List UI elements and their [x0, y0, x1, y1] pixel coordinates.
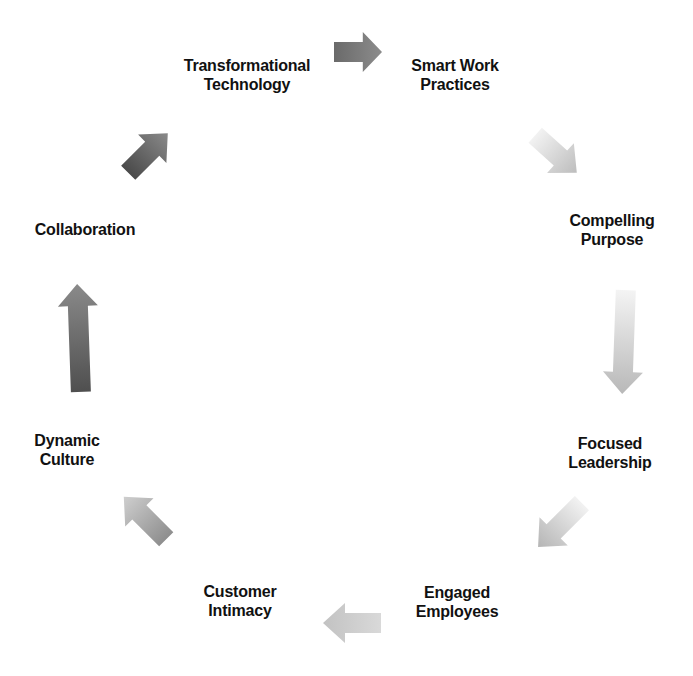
arrows-layer	[0, 0, 693, 676]
arrow-shape	[323, 603, 381, 643]
arrow-shape	[524, 489, 596, 561]
node-label-focused-leadership: FocusedLeadership	[568, 434, 651, 472]
node-label-line: Focused	[568, 434, 651, 453]
node-label-compelling-purpose: CompellingPurpose	[569, 211, 654, 249]
node-label-smart-work-practices: Smart WorkPractices	[411, 56, 499, 94]
node-label-collaboration: Collaboration	[35, 220, 136, 239]
arrow-icon	[57, 283, 101, 392]
cycle-diagram: TransformationalTechnologySmart WorkPrac…	[0, 0, 693, 676]
node-label-line: Compelling	[569, 211, 654, 230]
arrow-shape	[114, 119, 182, 187]
node-label-line: Purpose	[569, 230, 654, 249]
node-label-line: Culture	[34, 450, 99, 469]
node-label-line: Dynamic	[34, 431, 99, 450]
node-label-line: Engaged	[416, 583, 499, 602]
node-label-transformational-technology: TransformationalTechnology	[184, 56, 311, 94]
arrow-shape	[110, 483, 181, 554]
node-label-line: Employees	[416, 602, 499, 621]
arrow-shape	[522, 120, 590, 187]
arrow-shape	[334, 32, 382, 72]
arrow-icon	[334, 32, 382, 72]
node-label-customer-intimacy: CustomerIntimacy	[203, 582, 276, 620]
node-label-line: Transformational	[184, 56, 311, 75]
arrow-shape	[602, 289, 646, 394]
node-label-line: Smart Work	[411, 56, 499, 75]
node-label-line: Collaboration	[35, 220, 136, 239]
node-label-line: Intimacy	[203, 601, 276, 620]
node-label-line: Practices	[411, 75, 499, 94]
arrow-shape	[57, 283, 101, 392]
node-label-engaged-employees: EngagedEmployees	[416, 583, 499, 621]
arrow-icon	[110, 483, 181, 554]
arrow-icon	[602, 289, 646, 394]
arrow-icon	[114, 119, 182, 187]
node-label-line: Technology	[184, 75, 311, 94]
arrow-icon	[522, 120, 590, 187]
arrow-icon	[323, 603, 381, 643]
node-label-line: Leadership	[568, 453, 651, 472]
arrow-icon	[524, 489, 596, 561]
node-label-dynamic-culture: DynamicCulture	[34, 431, 99, 469]
node-label-line: Customer	[203, 582, 276, 601]
